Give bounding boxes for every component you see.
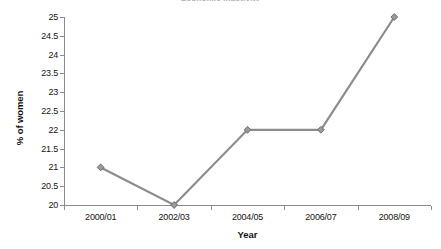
series-markers: [97, 14, 397, 209]
line-chart: Economic inactivity % of women 2524.5242…: [0, 0, 441, 249]
series-line: [101, 17, 395, 205]
plot-area: [0, 0, 441, 249]
